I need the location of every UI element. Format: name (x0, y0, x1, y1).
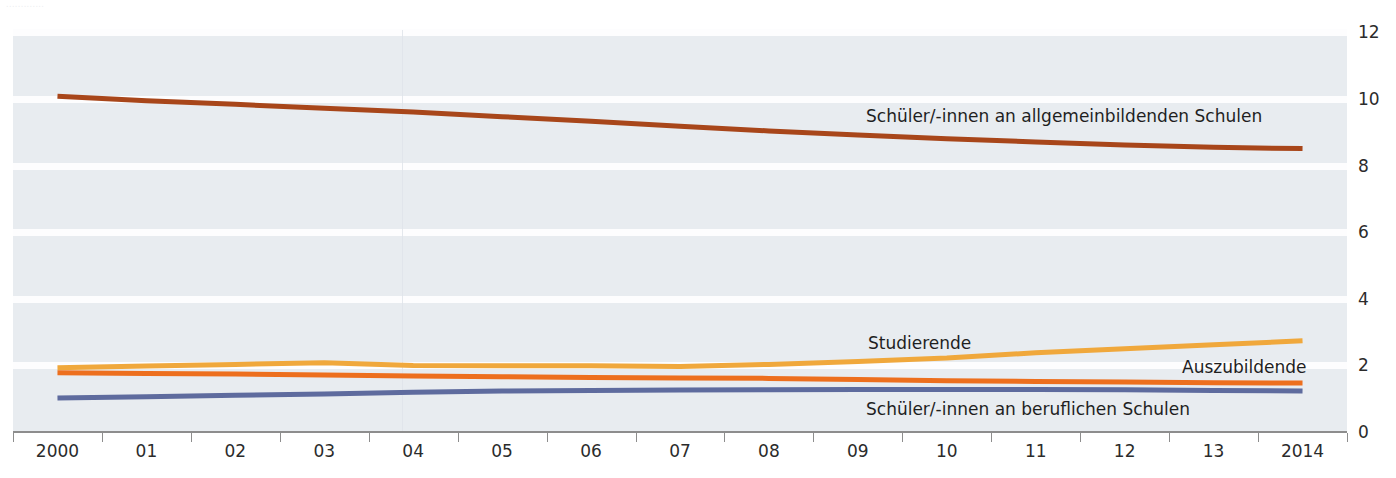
x-tick (1258, 433, 1259, 442)
x-tick (280, 433, 281, 442)
x-tick (724, 433, 725, 442)
x-tick (191, 433, 192, 442)
x-tick-label-13: 13 (1203, 441, 1225, 461)
y-tick-label-12: 12 (1358, 22, 1380, 42)
gridline-6 (13, 229, 1347, 236)
y-tick-label-10: 10 (1358, 89, 1380, 109)
x-tick-label-06: 06 (580, 441, 602, 461)
x-tick (1347, 433, 1348, 442)
x-tick-label-11: 11 (1025, 441, 1047, 461)
x-tick (13, 433, 14, 442)
y-tick-label-6: 6 (1358, 222, 1369, 242)
x-tick (458, 433, 459, 442)
x-tick (547, 433, 548, 442)
x-tick (1080, 433, 1081, 442)
series-label-studierende: Studierende (868, 333, 971, 353)
x-tick-label-09: 09 (847, 441, 869, 461)
chart-figure: ............. 20000102030405060708091011… (0, 0, 1396, 478)
x-tick-label-12: 12 (1114, 441, 1136, 461)
x-tick-label-10: 10 (936, 441, 958, 461)
x-tick-label-2014: 2014 (1281, 441, 1324, 461)
x-tick-label-04: 04 (402, 441, 424, 461)
x-tick (636, 433, 637, 442)
gridline-8 (13, 163, 1347, 170)
series-label-schueler-beruflich: Schüler/-innen an beruflichen Schulen (866, 399, 1190, 419)
y-tick-label-8: 8 (1358, 156, 1369, 176)
x-tick (102, 433, 103, 442)
series-label-schueler-allgemeinbildend: Schüler/-innen an allgemeinbildenden Sch… (866, 106, 1262, 126)
x-tick-label-08: 08 (758, 441, 780, 461)
x-tick (1169, 433, 1170, 442)
series-label-auszubildende: Auszubildende (1182, 357, 1306, 377)
x-tick (813, 433, 814, 442)
y-tick-label-4: 4 (1358, 289, 1369, 309)
y-tick-label-0: 0 (1358, 422, 1369, 442)
x-tick-label-02: 02 (225, 441, 247, 461)
x-tick-label-05: 05 (491, 441, 513, 461)
gridline-12 (13, 29, 1347, 36)
x-tick (902, 433, 903, 442)
x-tick-label-03: 03 (313, 441, 335, 461)
plot-area (13, 30, 1347, 432)
x-tick (991, 433, 992, 442)
x-axis-line (13, 431, 1347, 433)
gridline-4 (13, 296, 1347, 303)
gridline-10 (13, 96, 1347, 103)
vertical-gridline (402, 30, 403, 432)
x-tick (369, 433, 370, 442)
gridline-2 (13, 362, 1347, 369)
x-tick-label-07: 07 (669, 441, 691, 461)
top-caption-note: ............. (6, 0, 116, 9)
x-tick-label-2000: 2000 (36, 441, 79, 461)
y-tick-label-2: 2 (1358, 355, 1369, 375)
x-tick-label-01: 01 (136, 441, 158, 461)
